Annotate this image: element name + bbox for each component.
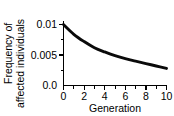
- data-series-line: [64, 25, 167, 69]
- x-tick-label-2: 2: [81, 90, 87, 102]
- y-axis-title-line2: affected individuals: [14, 19, 26, 108]
- y-tick-label-0.01: 0.01: [37, 18, 58, 30]
- y-tick-label-0.0: 0.0: [42, 79, 57, 91]
- x-tick-label-10: 10: [161, 90, 173, 102]
- y-axis-title-line1: Frequency of: [2, 23, 14, 84]
- x-tick-label-0: 0: [61, 90, 67, 102]
- chart-figure: Frequency of affected individuals 0.01 0…: [0, 0, 174, 116]
- x-tick-label-6: 6: [122, 90, 128, 102]
- x-tick-label-8: 8: [143, 90, 149, 102]
- x-axis-title: Generation: [89, 102, 141, 114]
- chart-plot-area: Frequency of affected individuals 0.01 0…: [0, 0, 174, 116]
- x-tick-label-4: 4: [102, 90, 108, 102]
- y-tick-label-0.005: 0.005: [31, 49, 57, 61]
